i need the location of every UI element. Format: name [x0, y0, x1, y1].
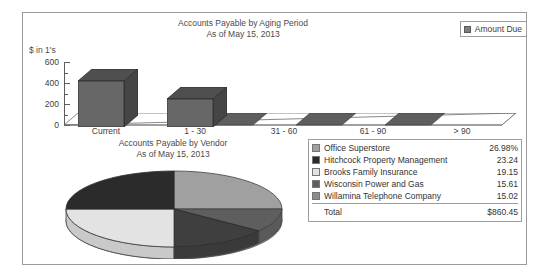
bar-plot-region: 600 400 200 0	[23, 13, 528, 135]
swatch-icon-wisconsin-power-and-gas	[312, 180, 320, 188]
vendor-legend-table: Office Superstore 26.98% Hitchcock Prope…	[308, 139, 522, 222]
y-axis-label-200: 200	[31, 100, 59, 108]
vendor-value: 19.15	[491, 167, 518, 177]
bar-1-30	[167, 87, 227, 125]
vendor-name: Willamina Telephone Company	[324, 191, 491, 201]
vendor-name: Brooks Family Insurance	[324, 167, 491, 177]
swatch-icon-brooks-family-insurance	[312, 168, 320, 176]
bar-current	[78, 69, 138, 125]
swatch-icon-hitchcock-property-management	[312, 156, 320, 164]
pie-chart-subtitle: As of May 15, 2013	[136, 149, 209, 159]
vendor-name: Wisconsin Power and Gas	[324, 179, 491, 189]
pie-slice-hitchcock-property-management	[66, 171, 174, 209]
y-tick-300	[64, 94, 68, 95]
pie-chart-title: Accounts Payable by VendorAs of May 15, …	[63, 138, 283, 160]
pie-slice-office-superstore	[174, 171, 282, 209]
y-tick-400	[64, 83, 70, 84]
table-row-total: Total $860.45	[312, 203, 518, 218]
vendor-value: 23.24	[491, 155, 518, 165]
table-row: Brooks Family Insurance 19.15	[312, 166, 518, 178]
vendor-name: Hitchcock Property Management	[324, 155, 491, 165]
y-tick-200	[64, 104, 70, 105]
aging-period-bar-chart: Accounts Payable by Aging PeriodAs of Ma…	[23, 13, 528, 135]
y-tick-500	[64, 73, 68, 74]
vendor-value: 15.61	[491, 179, 518, 189]
total-value: $860.45	[481, 207, 518, 217]
table-row: Willamina Telephone Company 15.02	[312, 190, 518, 202]
y-axis-label-600: 600	[31, 58, 59, 66]
y-axis-label-0: 0	[31, 121, 59, 129]
vendor-name: Office Superstore	[324, 143, 483, 153]
table-row: Office Superstore 26.98%	[312, 142, 518, 154]
pie-chart-title-line1: Accounts Payable by Vendor	[119, 138, 228, 148]
report-panel: Accounts Payable by Aging PeriodAs of Ma…	[22, 12, 527, 265]
table-row: Wisconsin Power and Gas 15.61	[312, 178, 518, 190]
swatch-icon-willamina-telephone-company	[312, 192, 320, 200]
table-row: Hitchcock Property Management 23.24	[312, 154, 518, 166]
y-tick-600	[64, 62, 70, 63]
swatch-icon-office-superstore	[312, 144, 320, 152]
report-page: Accounts Payable by Aging PeriodAs of Ma…	[0, 0, 549, 279]
total-label: Total	[312, 207, 481, 217]
vendor-value: 15.02	[491, 191, 518, 201]
vendor-value: 26.98%	[483, 143, 518, 153]
pie-graphic	[61, 161, 291, 259]
y-axis-label-400: 400	[31, 79, 59, 87]
vendor-pie-chart: Accounts Payable by VendorAs of May 15, …	[23, 135, 528, 266]
